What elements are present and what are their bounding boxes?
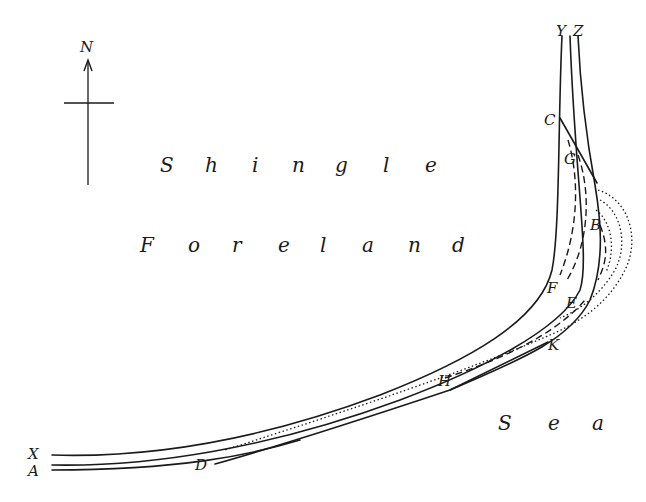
svg-text:h: h bbox=[205, 153, 218, 177]
svg-text:a: a bbox=[362, 233, 374, 257]
dotted-ridges bbox=[225, 190, 632, 450]
svg-text:n: n bbox=[408, 233, 421, 257]
svg-text:o: o bbox=[188, 233, 200, 257]
point-label-x: X bbox=[27, 445, 40, 463]
point-label-f: F bbox=[546, 279, 558, 297]
point-label-y: Y bbox=[556, 22, 568, 40]
svg-text:S: S bbox=[160, 153, 174, 177]
region-label-shingle: S h i n g l e bbox=[160, 153, 437, 177]
svg-text:r: r bbox=[232, 233, 243, 257]
point-label-a: A bbox=[26, 462, 39, 480]
svg-text:a: a bbox=[592, 411, 604, 435]
svg-text:n: n bbox=[292, 153, 305, 177]
svg-text:g: g bbox=[335, 153, 348, 177]
point-label-g: G bbox=[564, 150, 576, 168]
point-label-b: B bbox=[589, 216, 601, 234]
svg-text:i: i bbox=[252, 153, 258, 177]
point-label-k: K bbox=[547, 336, 560, 354]
svg-text:S: S bbox=[498, 411, 512, 435]
north-label: N bbox=[79, 38, 94, 56]
svg-text:e: e bbox=[278, 233, 290, 257]
shingle-foreland-diagram: N S h i n g l e F o r e l a n d S e a bbox=[0, 0, 646, 502]
region-label-sea: S e a bbox=[498, 411, 604, 435]
svg-text:e: e bbox=[425, 153, 437, 177]
point-label-d: D bbox=[194, 456, 207, 474]
region-label-foreland: F o r e l a n d bbox=[139, 233, 465, 257]
point-labels: X A Y Z C G B F E K H D bbox=[26, 22, 601, 480]
svg-text:e: e bbox=[548, 411, 560, 435]
svg-text:l: l bbox=[383, 153, 389, 177]
svg-text:l: l bbox=[320, 233, 326, 257]
point-label-c: C bbox=[544, 111, 556, 129]
north-arrow-icon bbox=[64, 60, 114, 185]
point-label-h: H bbox=[437, 372, 452, 390]
svg-text:d: d bbox=[452, 233, 465, 257]
point-label-z: Z bbox=[572, 22, 584, 40]
svg-text:F: F bbox=[139, 233, 155, 257]
dashed-ridges bbox=[445, 140, 606, 378]
point-label-e: E bbox=[565, 294, 577, 312]
